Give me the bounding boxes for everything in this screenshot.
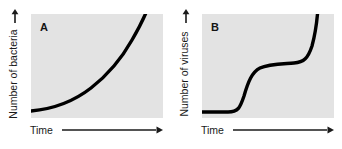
panel-a-plot-area — [31, 14, 163, 118]
arrow-right-icon — [62, 123, 164, 137]
panel-a-y-axis-label: Number of bacteria — [2, 14, 24, 134]
panel-label-b: B — [211, 21, 219, 34]
panel-b: Number of viruses B Time — [171, 0, 342, 149]
two-panel-growth-curve-figure: Number of bacteria A Time — [0, 0, 342, 149]
panel-a-x-axis: Time — [28, 120, 168, 146]
panel-b-y-axis: Number of viruses — [171, 0, 202, 125]
panel-a-x-axis-label: Time — [30, 123, 53, 137]
panel-b-x-axis-label: Time — [201, 123, 224, 137]
panel-b-x-axis: Time — [199, 120, 339, 146]
panel-a-y-axis: Number of bacteria — [0, 0, 31, 125]
arrow-right-icon — [233, 123, 335, 137]
panel-label-a: A — [40, 21, 48, 34]
panel-b-y-axis-label: Number of viruses — [173, 14, 195, 134]
panel-a: Number of bacteria A Time — [0, 0, 171, 149]
panel-b-plot-area — [202, 14, 334, 118]
